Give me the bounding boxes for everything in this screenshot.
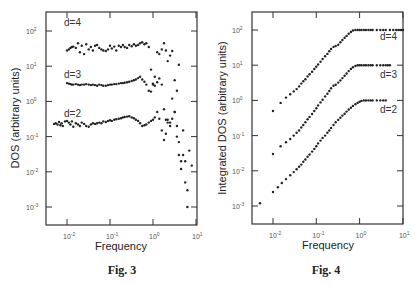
data-point xyxy=(337,119,339,121)
data-point xyxy=(328,90,330,92)
data-point xyxy=(295,88,297,90)
data-point xyxy=(167,60,169,62)
data-point xyxy=(171,118,173,120)
data-point xyxy=(326,132,328,134)
data-point xyxy=(313,110,315,112)
data-point xyxy=(180,168,182,170)
fig4-caption: Fig. 4 xyxy=(312,263,341,277)
data-point xyxy=(75,83,77,85)
data-point xyxy=(176,135,178,137)
data-point xyxy=(126,115,128,117)
data-point xyxy=(126,81,128,83)
data-point xyxy=(85,83,87,85)
data-point xyxy=(335,84,337,86)
data-point xyxy=(98,47,100,49)
data-point xyxy=(302,80,304,82)
data-point xyxy=(145,83,147,85)
data-point xyxy=(367,64,369,66)
data-point xyxy=(298,129,300,131)
data-point xyxy=(111,120,113,122)
data-point xyxy=(352,105,354,107)
data-point xyxy=(304,78,306,80)
data-point xyxy=(111,47,113,49)
data-point xyxy=(148,46,150,48)
data-point xyxy=(335,45,337,47)
data-point xyxy=(306,75,308,77)
data-point xyxy=(118,118,120,120)
data-point xyxy=(96,44,98,46)
x-tick-label: 10-2 xyxy=(269,230,281,239)
y-tick-label: 10-3 xyxy=(232,201,244,210)
data-point xyxy=(328,50,330,52)
data-point xyxy=(161,83,163,85)
data-point xyxy=(341,77,343,79)
data-point xyxy=(152,119,154,121)
fig3-plot: 10-210-110010110210110010-110-210-3 d=4 … xyxy=(9,12,203,277)
data-point xyxy=(72,83,74,85)
data-point xyxy=(308,153,310,155)
data-point xyxy=(133,43,135,45)
x-tick-label: 101 xyxy=(192,231,203,240)
y-tick-label: 10-1 xyxy=(26,132,38,141)
data-point xyxy=(302,161,304,163)
data-point xyxy=(182,129,184,131)
data-point xyxy=(58,121,60,123)
data-point xyxy=(348,108,350,110)
data-point xyxy=(339,117,341,119)
data-point xyxy=(324,55,326,57)
data-point xyxy=(306,156,308,158)
data-point xyxy=(345,110,347,112)
data-point xyxy=(158,118,160,120)
data-point xyxy=(113,119,115,121)
data-point xyxy=(77,42,79,44)
data-point xyxy=(169,125,171,127)
data-point xyxy=(148,90,150,92)
data-point xyxy=(137,44,139,46)
fig4-label-d2: d=2 xyxy=(380,104,397,115)
data-point xyxy=(371,29,373,31)
data-point xyxy=(150,68,152,70)
data-point xyxy=(335,121,337,123)
data-point xyxy=(64,120,66,122)
data-point xyxy=(382,99,384,101)
data-point xyxy=(141,41,143,43)
data-point xyxy=(81,45,83,47)
data-point xyxy=(56,123,58,125)
data-point xyxy=(105,85,107,87)
fig4-label-d4: d=4 xyxy=(380,31,397,42)
data-point xyxy=(313,68,315,70)
series-d-3 xyxy=(66,76,189,209)
data-point xyxy=(376,29,378,31)
data-point xyxy=(66,120,68,122)
data-point xyxy=(389,64,391,66)
data-point xyxy=(163,42,165,44)
data-point xyxy=(102,85,104,87)
data-point xyxy=(133,117,135,119)
fig3-data-points xyxy=(53,41,193,208)
data-point xyxy=(169,54,171,56)
data-point xyxy=(59,124,61,126)
data-point xyxy=(115,118,117,120)
data-point xyxy=(313,148,315,150)
data-point xyxy=(113,45,115,47)
y-tick-label: 100 xyxy=(232,95,243,104)
data-point xyxy=(311,113,313,115)
data-point xyxy=(321,137,323,139)
data-point xyxy=(367,99,369,101)
data-point xyxy=(379,99,381,101)
data-point xyxy=(90,84,92,86)
data-point xyxy=(285,141,287,143)
fig3-caption: Fig. 3 xyxy=(108,263,137,277)
series-d-3 xyxy=(272,64,391,155)
data-point xyxy=(289,93,291,95)
data-point xyxy=(124,116,126,118)
data-point xyxy=(376,64,378,66)
data-point xyxy=(289,138,291,140)
data-point xyxy=(145,42,147,44)
data-point xyxy=(115,49,117,51)
data-point xyxy=(100,122,102,124)
data-point xyxy=(77,123,79,125)
data-point xyxy=(330,127,332,129)
data-point xyxy=(174,79,176,81)
data-point xyxy=(326,53,328,55)
